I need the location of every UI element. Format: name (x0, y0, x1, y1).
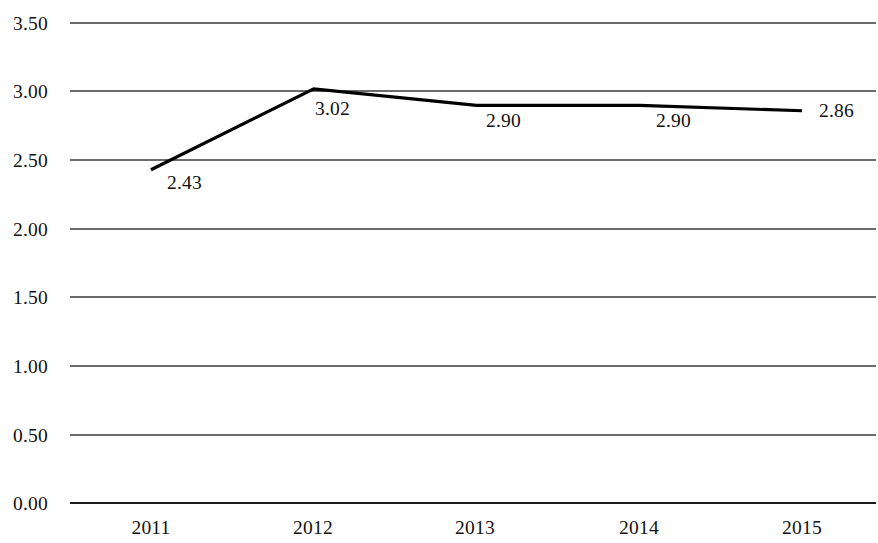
y-axis-tick-3-50: 3.50 (0, 13, 48, 35)
y-axis-tick-1-50: 1.50 (0, 287, 48, 309)
data-label-2013: 2.90 (486, 110, 521, 132)
y-axis-tick-1-00: 1.00 (0, 356, 48, 378)
y-axis-tick-2-50: 2.50 (0, 150, 48, 172)
y-axis-tick-3-00: 3.00 (0, 81, 48, 103)
data-series-line (151, 89, 802, 170)
x-axis-tick-2014: 2014 (589, 517, 689, 539)
gridlines (70, 23, 876, 503)
chart-plot-area (0, 0, 878, 543)
x-axis-tick-2012: 2012 (263, 517, 363, 539)
x-axis-tick-2011: 2011 (101, 517, 201, 539)
data-label-2012: 3.02 (315, 98, 350, 120)
line-chart: 3.50 3.00 2.50 2.00 1.50 1.00 0.50 0.00 … (0, 0, 878, 543)
y-axis-tick-0-50: 0.50 (0, 425, 48, 447)
y-axis-tick-0-00: 0.00 (0, 493, 48, 515)
x-axis-tick-2013: 2013 (425, 517, 525, 539)
data-label-2011: 2.43 (167, 172, 202, 194)
data-label-2014: 2.90 (656, 110, 691, 132)
data-label-2015: 2.86 (819, 100, 854, 122)
y-axis-tick-2-00: 2.00 (0, 219, 48, 241)
x-axis-tick-2015: 2015 (752, 517, 852, 539)
